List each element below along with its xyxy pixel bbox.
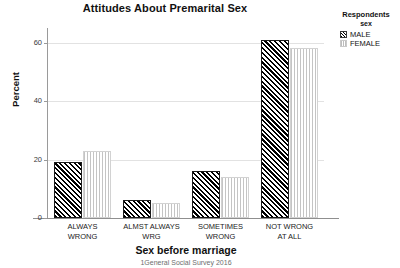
bar-female-2 — [221, 177, 249, 218]
y-axis-title: Percent — [10, 45, 21, 135]
legend-title: Respondents — [332, 10, 400, 19]
chart-legend: Respondents sex MALE FEMALE — [332, 10, 400, 48]
legend-label-male: MALE — [350, 30, 370, 39]
y-tick-label: 40 — [20, 97, 42, 105]
chart-container: Attitudes About Premarital Sex Responden… — [0, 0, 400, 268]
bar-female-3 — [290, 48, 318, 218]
legend-item-female[interactable]: FEMALE — [340, 39, 400, 48]
bar-male-1 — [123, 200, 151, 218]
y-tick-mark — [44, 101, 47, 102]
legend-swatch-female-icon — [340, 40, 347, 47]
y-tick-mark — [44, 160, 47, 161]
x-axis-line — [33, 218, 339, 219]
bar-male-0 — [54, 162, 82, 218]
legend-subtitle: sex — [332, 19, 400, 28]
y-tick-label: 20 — [20, 156, 42, 164]
y-tick-label: 60 — [20, 39, 42, 47]
bar-female-1 — [152, 203, 180, 218]
legend-label-female: FEMALE — [350, 39, 380, 48]
bar-female-0 — [83, 151, 111, 218]
chart-title: Attitudes About Premarital Sex — [0, 2, 330, 14]
y-tick-mark — [44, 218, 47, 219]
y-tick-mark — [44, 43, 47, 44]
x-category-label: SOMETIMESWRONG — [186, 222, 255, 242]
chart-footnote: 1General Social Survey 2016 — [33, 259, 339, 268]
legend-items: MALE FEMALE — [332, 30, 400, 48]
legend-item-male[interactable]: MALE — [340, 30, 400, 39]
x-category-label: NOT WRONGAT ALL — [255, 222, 324, 242]
x-category-label: ALWAYSWRONG — [48, 222, 117, 242]
x-axis-title: Sex before marriage — [33, 244, 339, 256]
legend-swatch-male-icon — [340, 31, 347, 38]
bar-male-2 — [192, 171, 220, 218]
x-category-label: ALMST ALWAYSWRG — [117, 222, 186, 242]
bar-male-3 — [261, 40, 289, 218]
y-tick-label: 0 — [20, 214, 42, 222]
plot-area — [48, 28, 324, 218]
